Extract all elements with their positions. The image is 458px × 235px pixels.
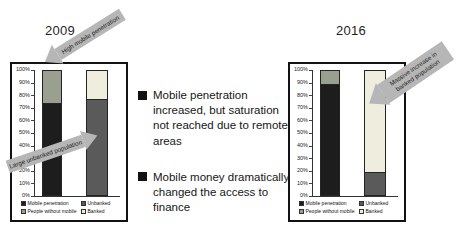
- bar-segment-mobile-penetration: [321, 85, 339, 195]
- legend-item: Mobile penetration: [299, 201, 355, 206]
- legend-swatch-icon: [21, 209, 26, 214]
- bar-segment-unbanked: [365, 173, 385, 195]
- y-tick-label: 70%: [13, 105, 30, 111]
- legend-swatch-icon: [359, 201, 364, 206]
- bullet-square-icon: [138, 91, 147, 100]
- y-axis-line: [34, 70, 35, 196]
- stacked-bar-mobile: [42, 70, 62, 196]
- year-label-2016: 2016: [336, 23, 366, 38]
- legend-swatch-icon: [81, 201, 86, 206]
- y-tick-label: 100%: [291, 67, 308, 73]
- stacked-bar-mobile: [320, 70, 340, 196]
- y-tick-label: 100%: [13, 67, 30, 73]
- legend-item: Banked: [359, 209, 388, 214]
- bar-segment-people-without-mobile: [43, 71, 61, 104]
- legend-label: Mobile penetration: [28, 201, 69, 206]
- key-points: Mobile penetration increased, but satura…: [138, 88, 298, 215]
- legend-item: Unbanked: [359, 201, 388, 206]
- legend-label: Banked: [366, 209, 383, 214]
- y-tick-label: 0%: [13, 193, 30, 199]
- bullet-square-icon: [138, 172, 147, 181]
- slide: 2009 2016 0%10%20%30%40%50%60%70%80%90%1…: [0, 0, 458, 235]
- bar-segment-banked: [87, 71, 107, 100]
- legend-swatch-icon: [299, 201, 304, 206]
- chart-legend: Mobile penetrationPeople without mobileU…: [21, 201, 110, 214]
- x-axis-line: [34, 196, 120, 197]
- legend-swatch-icon: [81, 209, 86, 214]
- y-tick-label: 50%: [13, 130, 30, 136]
- chart-legend: Mobile penetrationPeople without mobileU…: [299, 201, 388, 214]
- y-tick-label: 90%: [291, 80, 308, 86]
- legend-item: Mobile penetration: [21, 201, 77, 206]
- bar-segment-people-without-mobile: [321, 71, 339, 85]
- legend-item: Unbanked: [81, 201, 110, 206]
- y-tick-label: 40%: [13, 143, 30, 149]
- legend-item: Banked: [81, 209, 110, 214]
- y-tick-label: 90%: [13, 80, 30, 86]
- bullet-item-1: Mobile penetration increased, but satura…: [138, 88, 298, 149]
- bullet-item-2: Mobile money dramatically changed the ac…: [138, 170, 298, 216]
- legend-label: People without mobile: [306, 209, 355, 214]
- y-tick-label: 60%: [13, 118, 30, 124]
- legend-item: People without mobile: [299, 209, 355, 214]
- legend-label: Unbanked: [366, 201, 389, 206]
- y-tick-label: 80%: [13, 93, 30, 99]
- bullet-text-2: Mobile money dramatically changed the ac…: [153, 171, 289, 213]
- y-axis-line: [312, 70, 313, 196]
- legend-label: People without mobile: [28, 209, 77, 214]
- legend-label: Unbanked: [88, 201, 111, 206]
- bullet-text-1: Mobile penetration increased, but satura…: [153, 89, 288, 147]
- legend-label: Banked: [88, 209, 105, 214]
- legend-item: People without mobile: [21, 209, 77, 214]
- x-axis-line: [312, 196, 398, 197]
- legend-swatch-icon: [21, 201, 26, 206]
- y-tick-label: 10%: [13, 181, 30, 187]
- legend-swatch-icon: [359, 209, 364, 214]
- legend-label: Mobile penetration: [306, 201, 347, 206]
- legend-swatch-icon: [299, 209, 304, 214]
